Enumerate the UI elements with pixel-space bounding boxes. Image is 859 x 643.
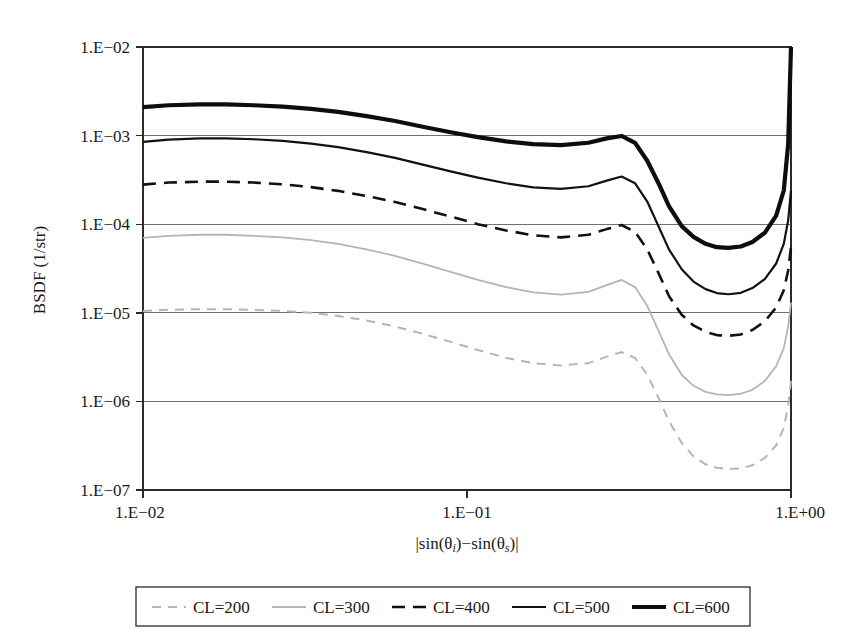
x-axis-title-sin-s: sin(θ xyxy=(471,534,505,553)
x-axis-title-minus: − xyxy=(462,534,472,553)
legend-label-cl-600: CL=600 xyxy=(673,598,730,617)
y-tick-label: 1.E−06 xyxy=(80,392,130,411)
bsdf-scatter-chart: 1.E−021.E−031.E−041.E−051.E−061.E−07 1.E… xyxy=(0,0,859,643)
y-tick-label: 1.E−04 xyxy=(80,215,130,234)
x-axis-title-bar-right: | xyxy=(515,534,518,553)
y-tick-label: 1.E−05 xyxy=(80,304,130,323)
legend-label-cl-400: CL=400 xyxy=(433,598,490,617)
x-axis-title: |sin(θi)−sin(θs)| xyxy=(415,534,518,555)
y-tick-label: 1.E−02 xyxy=(80,38,130,57)
x-tick-label: 1.E+00 xyxy=(775,503,825,522)
legend-label-cl-500: CL=500 xyxy=(553,598,610,617)
legend-label-cl-300: CL=300 xyxy=(313,598,370,617)
x-axis-title-sin-i: sin(θ xyxy=(419,534,453,553)
y-tick-label: 1.E−07 xyxy=(80,481,130,500)
y-tick-label: 1.E−03 xyxy=(80,127,130,146)
x-tick-label: 1.E−01 xyxy=(442,503,492,522)
legend-label-cl-200: CL=200 xyxy=(193,598,250,617)
y-axis-title: BSDF (1/str) xyxy=(30,226,49,314)
x-tick-label: 1.E−02 xyxy=(115,503,165,522)
